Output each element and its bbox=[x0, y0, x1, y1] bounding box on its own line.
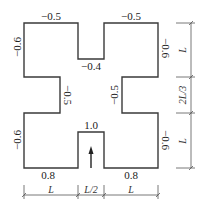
dim-bottom-left: L bbox=[47, 184, 54, 195]
dim-right-mid: 2L/3 bbox=[177, 86, 188, 104]
coef-top-notch: −0.4 bbox=[81, 60, 101, 72]
dim-right-bottom: L bbox=[177, 138, 188, 145]
coef-left-lower: −0.6 bbox=[11, 130, 23, 150]
wind-arrow-icon bbox=[89, 146, 94, 168]
coef-bottom-notch: 1.0 bbox=[84, 119, 98, 131]
coef-right-upper: −0.6 bbox=[160, 38, 172, 58]
coef-top-left: −0.5 bbox=[41, 10, 61, 22]
coef-left-upper: −0.6 bbox=[11, 37, 23, 57]
coef-bottom-right: 0.8 bbox=[124, 169, 138, 181]
cross-plan-diagram: −0.5 −0.5 −0.4 −0.6 −0.6 −0.5 −0.5 −0.6 … bbox=[0, 0, 207, 211]
bottom-dimension: L L/2 L bbox=[22, 184, 160, 199]
dim-bottom-right: L bbox=[127, 184, 134, 195]
right-dimension: L 2L/3 L bbox=[176, 21, 195, 170]
dim-bottom-mid: L/2 bbox=[83, 184, 97, 195]
coef-bottom-left: 0.8 bbox=[41, 169, 55, 181]
coef-left-notch: −0.5 bbox=[62, 85, 74, 105]
coef-top-right: −0.5 bbox=[121, 10, 141, 22]
coef-right-notch: −0.5 bbox=[108, 85, 120, 105]
coef-right-lower: −0.6 bbox=[160, 130, 172, 150]
dim-right-top: L bbox=[177, 47, 188, 54]
